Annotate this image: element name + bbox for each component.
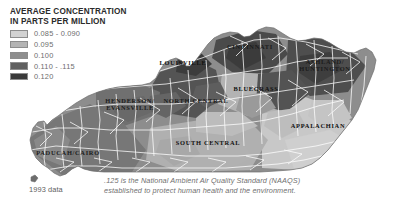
legend-label-2: 0.100: [34, 51, 54, 60]
legend-swatch-0: [10, 30, 28, 38]
legend-item-2: 0.100: [10, 51, 127, 61]
legend-item-0: 0.085 - 0.090: [10, 29, 127, 39]
legend-swatch-4: [10, 73, 28, 81]
naaqs-note: .125 is the National Ambient Air Quality…: [104, 176, 300, 195]
ozone-concentration-map: AVERAGE CONCENTRATION IN PARTS PER MILLI…: [0, 0, 396, 203]
legend-swatch-2: [10, 52, 28, 60]
kentucky-bend-sliver: [31, 175, 38, 182]
year-note: 1993 data: [29, 185, 63, 194]
legend-label-3: 0.110 - .115: [34, 62, 75, 71]
legend-label-4: 0.120: [34, 72, 54, 81]
legend-item-1: 0.095: [10, 40, 127, 50]
legend-item-3: 0.110 - .115: [10, 61, 127, 71]
legend-title: AVERAGE CONCENTRATION IN PARTS PER MILLI…: [10, 7, 127, 26]
legend: AVERAGE CONCENTRATION IN PARTS PER MILLI…: [10, 7, 127, 83]
legend-swatch-1: [10, 41, 28, 49]
legend-item-4: 0.120: [10, 72, 127, 82]
legend-swatch-3: [10, 62, 28, 70]
legend-label-0: 0.085 - 0.090: [34, 29, 80, 38]
legend-label-1: 0.095: [34, 40, 54, 49]
